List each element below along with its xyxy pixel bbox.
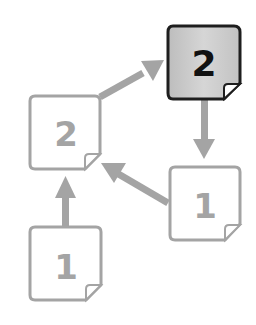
page-fold-icon [224,84,240,99]
node-bottom-left[interactable]: 1 [30,227,101,300]
node-label: 1 [193,186,217,226]
diagram-canvas: 2 2 1 1 [0,0,256,325]
node-label: 2 [54,114,78,154]
page-fold-icon [85,154,100,169]
arrow-bottom-to-middle-left [55,176,76,226]
node-middle-left[interactable]: 2 [30,96,100,169]
node-label: 1 [54,247,78,287]
node-top-right[interactable]: 2 [168,26,240,99]
arrow-top-right-to-middle-right [193,99,215,159]
arrow-right-to-middle-left [101,163,168,203]
page-fold-icon [86,285,101,300]
page-fold-icon [225,225,240,240]
node-label: 2 [191,43,216,84]
arrow-middle-left-to-top-right [100,60,164,97]
node-middle-right[interactable]: 1 [170,167,240,240]
